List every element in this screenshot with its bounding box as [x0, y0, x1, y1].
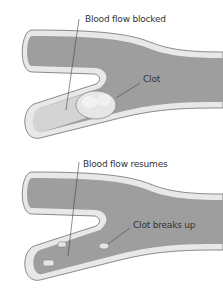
label-blood-flow-blocked: Blood flow blocked	[85, 14, 166, 24]
label-clot: Clot	[143, 74, 160, 84]
label-clot-breaks-up: Clot breaks up	[133, 220, 195, 230]
label-blood-flow-resumes: Blood flow resumes	[83, 159, 167, 169]
panel-blood-flow-resumes: Blood flow resumes Clot breaks up	[0, 146, 223, 292]
clot-shape	[76, 91, 116, 119]
panel-blood-flow-blocked: Blood flow blocked Clot	[0, 0, 223, 146]
